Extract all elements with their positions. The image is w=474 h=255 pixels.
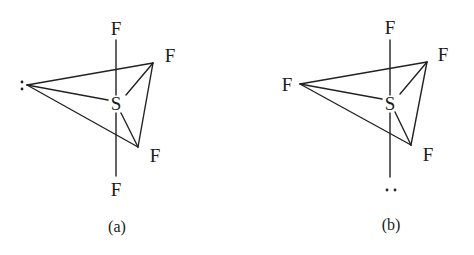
atom-f-left: F xyxy=(282,74,293,95)
edge-left-upper xyxy=(300,62,427,84)
bond-s-upper-right xyxy=(400,62,427,94)
atom-f-lower-right: F xyxy=(423,144,434,165)
atom-f-lower-right: F xyxy=(150,145,161,166)
atom-s-central: S xyxy=(111,93,122,114)
atom-f-axial-top: F xyxy=(111,18,122,39)
panel-b: F F F S F (b) xyxy=(282,17,449,234)
atom-f-upper-right: F xyxy=(438,44,449,65)
edge-right xyxy=(138,63,153,147)
atom-s-central: S xyxy=(385,93,396,114)
atom-f-axial-bottom: F xyxy=(111,179,122,200)
edge-right xyxy=(411,62,427,145)
edge-left-upper xyxy=(27,63,153,85)
lone-pair-bottom xyxy=(386,189,397,192)
caption-a: (a) xyxy=(108,218,126,236)
atom-f-axial-top: F xyxy=(385,17,396,38)
caption-b: (b) xyxy=(382,216,401,234)
bond-s-upper-right xyxy=(126,63,153,95)
panel-a: F F S F F (a) xyxy=(21,18,176,236)
edge-left-lower xyxy=(27,85,138,147)
atom-f-upper-right: F xyxy=(165,45,176,66)
sf4-geometry-figure: F F S F F (a) F F F S F (b) xyxy=(0,0,474,255)
lone-pair-left xyxy=(21,81,24,91)
